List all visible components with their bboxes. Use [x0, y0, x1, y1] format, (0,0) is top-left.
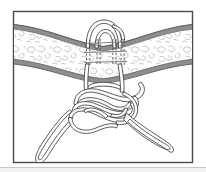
figure-root: Surgical suture knot through tissue band: [0, 0, 206, 172]
page-edge-bottom: [0, 167, 206, 172]
suture-knot-illustration: [0, 0, 206, 172]
